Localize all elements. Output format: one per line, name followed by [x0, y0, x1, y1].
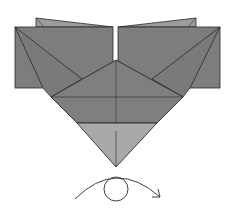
turn-over-circle-icon [104, 177, 128, 201]
origami-diagram [0, 0, 228, 212]
left-back-flap [36, 18, 113, 27]
turn-over-arrow-icon [75, 178, 160, 199]
turn-over-symbol [75, 177, 160, 201]
bottom-light-triangle [77, 123, 157, 167]
right-back-flap [118, 18, 196, 27]
